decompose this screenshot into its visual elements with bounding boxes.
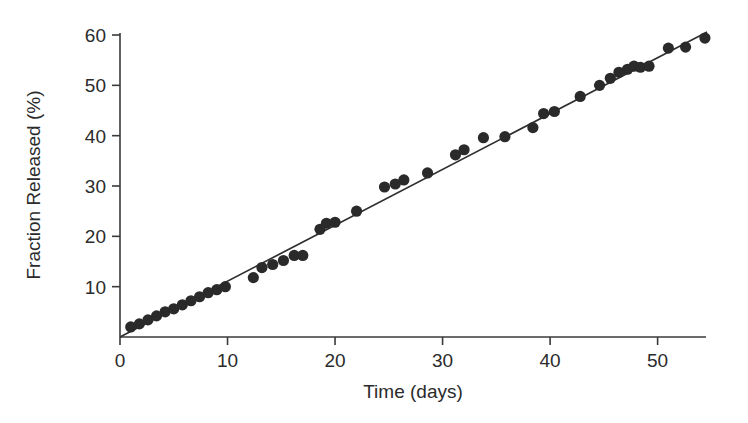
data-point [248, 272, 259, 283]
data-point [256, 262, 267, 273]
data-point [680, 41, 691, 52]
y-axis-tick-label: 40 [85, 126, 106, 147]
scatter-plot: 102030405060 01020304050 Time (days) Fra… [0, 0, 748, 423]
data-point [499, 131, 510, 142]
x-axis-title: Time (days) [363, 381, 463, 402]
data-point [379, 181, 390, 192]
data-point [527, 122, 538, 133]
y-axis-title: Fraction Released (%) [23, 90, 44, 279]
data-point [538, 108, 549, 119]
data-point [220, 281, 231, 292]
data-point [594, 80, 605, 91]
x-axis-tick-label: 10 [217, 350, 238, 371]
data-point [643, 61, 654, 72]
x-axis-tick-label: 40 [540, 350, 561, 371]
x-axis-tick-label: 30 [432, 350, 453, 371]
y-axis-tick-label: 20 [85, 226, 106, 247]
x-axis-tick-label: 50 [647, 350, 668, 371]
y-axis-tick-label: 30 [85, 176, 106, 197]
y-axis-tick-group: 102030405060 [85, 25, 120, 298]
x-axis-tick-label: 0 [115, 350, 126, 371]
data-point [699, 32, 710, 43]
data-point [278, 255, 289, 266]
data-point [575, 91, 586, 102]
data-point [422, 167, 433, 178]
data-point [329, 217, 340, 228]
data-point [267, 259, 278, 270]
data-point [398, 174, 409, 185]
y-axis-tick-label: 60 [85, 25, 106, 46]
x-axis-tick-label: 20 [324, 350, 345, 371]
y-axis-tick-label: 50 [85, 75, 106, 96]
data-point [297, 250, 308, 261]
data-point [351, 206, 362, 217]
chart-figure: 102030405060 01020304050 Time (days) Fra… [0, 0, 748, 423]
data-point [549, 106, 560, 117]
data-point [663, 43, 674, 54]
x-axis-tick-group: 01020304050 [115, 337, 668, 371]
data-point [478, 132, 489, 143]
data-point [458, 144, 469, 155]
y-axis-tick-label: 10 [85, 277, 106, 298]
